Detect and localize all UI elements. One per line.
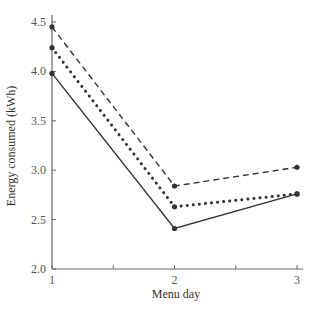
y-tick-label: 4.0	[31, 64, 46, 78]
data-point	[49, 45, 54, 50]
series-lines	[49, 24, 299, 231]
x-tick-label: 2	[172, 273, 178, 287]
x-axis-title: Menu day	[152, 287, 200, 301]
data-point	[172, 183, 177, 188]
series-line-dashed	[52, 27, 297, 186]
y-tick-label: 3.5	[31, 114, 46, 128]
data-point	[172, 204, 177, 209]
series-line-dotted	[52, 48, 297, 207]
data-point	[294, 165, 299, 170]
line-chart: 2.02.53.03.54.04.5123 Menu day Energy co…	[0, 0, 317, 310]
y-axis-title: Energy consumed (kWh)	[4, 86, 18, 206]
axes: 2.02.53.03.54.04.5123	[31, 15, 303, 287]
data-point	[49, 71, 54, 76]
x-tick-label: 1	[49, 273, 55, 287]
y-tick-label: 2.5	[31, 213, 46, 227]
data-point	[49, 24, 54, 29]
x-tick-label: 3	[294, 273, 300, 287]
data-point	[294, 191, 299, 196]
data-point	[172, 226, 177, 231]
y-tick-label: 3.0	[31, 163, 46, 177]
y-tick-label: 2.0	[31, 262, 46, 276]
y-tick-label: 4.5	[31, 15, 46, 29]
